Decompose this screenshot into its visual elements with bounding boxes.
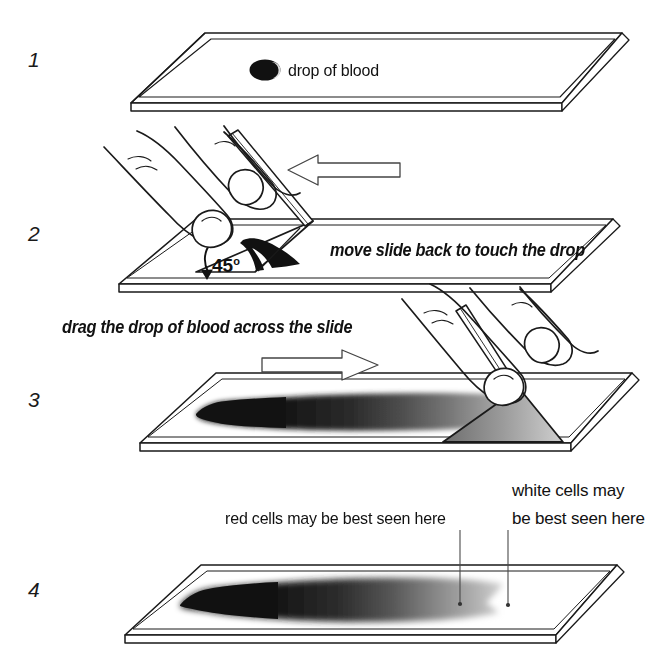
white-cells-annotation-line1: white cells may	[512, 480, 624, 502]
step-1-group	[131, 33, 629, 111]
move-slide-instruction: move slide back to touch the drop	[330, 240, 585, 261]
drag-drop-instruction: drag the drop of blood across the slide	[62, 317, 352, 338]
step-3-group	[140, 284, 639, 451]
red-cells-annotation: red cells may be best seen here	[225, 508, 446, 530]
drop-of-blood-label: drop of blood	[288, 60, 379, 82]
arrow-left-step2	[288, 155, 400, 185]
step-2-group	[104, 126, 620, 292]
white-cells-annotation-line2: be best seen here	[512, 508, 645, 530]
step-number-4: 4	[28, 578, 40, 602]
angle-label-45: 45o	[212, 255, 240, 277]
step-number-1: 1	[28, 48, 40, 72]
step-number-3: 3	[28, 388, 40, 412]
slide-1	[131, 33, 629, 111]
step-4-group	[125, 530, 624, 643]
step-number-2: 2	[28, 222, 40, 246]
